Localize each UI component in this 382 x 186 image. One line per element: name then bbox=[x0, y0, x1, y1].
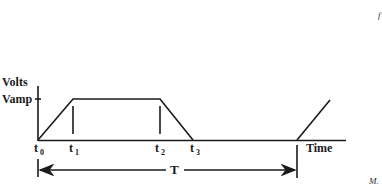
vamp-label: Vamp bbox=[2, 92, 33, 106]
time-label: Time bbox=[306, 141, 333, 155]
t2-sub: 2 bbox=[161, 148, 165, 157]
t0-base: t bbox=[34, 141, 38, 155]
t3-base: t bbox=[190, 141, 194, 155]
period-label: T bbox=[170, 162, 179, 177]
trapezoid-pulse bbox=[38, 99, 193, 140]
waveform-diagram: Volts Vamp Time T t 0 t 1 t 2 t 3 f M. bbox=[0, 0, 382, 186]
corner-text-bottom: M. bbox=[368, 176, 379, 186]
corner-text-top: f bbox=[378, 10, 382, 20]
t2-label: t 2 bbox=[155, 141, 165, 157]
t1-label: t 1 bbox=[69, 141, 79, 157]
t3-sub: 3 bbox=[196, 148, 200, 157]
t1-sub: 1 bbox=[75, 148, 79, 157]
t0-sub: 0 bbox=[40, 148, 44, 157]
volts-label: Volts bbox=[2, 75, 28, 89]
t2-base: t bbox=[155, 141, 159, 155]
t3-label: t 3 bbox=[190, 141, 200, 157]
t0-label: t 0 bbox=[34, 141, 44, 157]
t1-base: t bbox=[69, 141, 73, 155]
next-pulse-ramp bbox=[297, 100, 330, 140]
